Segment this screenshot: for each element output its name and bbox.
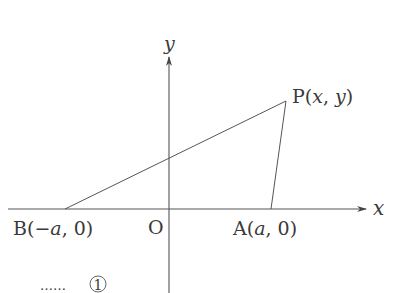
point-p-label: P(x,y) [292, 85, 353, 107]
point-b-label: B(−a,0) [13, 217, 93, 239]
annotation-number: 1 [94, 277, 103, 293]
segment-bp [65, 101, 286, 209]
x-axis-label: x [373, 196, 384, 220]
coordinate-diagram: y x O B(−a,0) A(a,0) P(x,y) …… 1 [0, 0, 406, 293]
segment-ap [271, 101, 286, 209]
y-axis-label: y [163, 32, 175, 54]
diagram-svg: y x O B(−a,0) A(a,0) P(x,y) …… 1 [0, 0, 406, 293]
annotation-dots: …… [40, 278, 66, 293]
origin-label: O [148, 216, 164, 238]
point-a-label: A(a,0) [232, 217, 297, 239]
